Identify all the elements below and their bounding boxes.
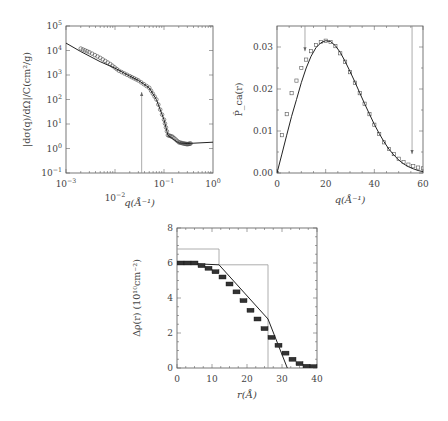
chart-contrast-profile: 01020304002468r(Å)Δρ(r) (10¹⁰cm⁻²) (112, 212, 336, 421)
series-line (177, 263, 287, 368)
axis-ticks (66, 26, 213, 173)
plot-area (66, 43, 213, 146)
x-tick-label: 20 (320, 179, 332, 189)
y-tick-label: 104 (47, 44, 62, 56)
series-line (66, 43, 213, 143)
series-markers (177, 261, 317, 369)
x-tick-label: 10−2 (105, 191, 126, 203)
series-line (277, 41, 423, 173)
plot-area (275, 39, 424, 175)
x-tick-label: 40 (369, 179, 381, 189)
y-tick-label: 102 (47, 93, 62, 105)
y-tick-label: 103 (47, 68, 62, 80)
x-tick-label: 10−3 (56, 177, 77, 189)
y-tick-label: 100 (47, 142, 62, 154)
x-tick-label: 0 (274, 179, 280, 189)
y-tick-label: 6 (167, 258, 173, 268)
plot-frame (277, 26, 423, 173)
arrowhead-icon (140, 92, 143, 96)
x-tick-label: 10−1 (154, 177, 175, 189)
x-axis-label: q(Å⁻¹) (335, 194, 366, 205)
x-tick-label: 30 (276, 374, 288, 384)
y-tick-label: 0.03 (253, 42, 273, 52)
plot-area (177, 249, 317, 369)
y-tick-label: 0 (167, 363, 173, 373)
x-tick-label: 10 (206, 374, 218, 384)
arrowhead-icon (303, 47, 306, 51)
arrowhead-icon (410, 150, 413, 154)
series-markers (79, 47, 193, 146)
plot-frame (66, 26, 213, 173)
series-line (177, 249, 268, 368)
y-axis-label: |dσ(q)/dΩ|/C(cm²/g) (21, 52, 33, 147)
y-tick-label: 4 (167, 293, 173, 303)
x-axis-label: r(Å) (237, 389, 257, 400)
chart-scattering-intensity: 10−310−210−110010−1100101102103104105q(Å… (0, 0, 224, 215)
x-tick-label: 20 (241, 374, 253, 384)
chart-distance-distribution: 02040600.000.010.020.03q(Å⁻¹)P̂_ca(r) (224, 0, 448, 215)
y-tick-label: 10−1 (41, 166, 62, 178)
series-markers (275, 39, 424, 175)
y-tick-label: 2 (167, 328, 173, 338)
axis-ticks (277, 26, 423, 173)
y-tick-label: 8 (167, 223, 173, 233)
y-axis-label: Δρ(r) (10¹⁰cm⁻²) (131, 259, 142, 337)
y-tick-label: 0.00 (253, 168, 273, 178)
y-tick-label: 0.02 (253, 84, 273, 94)
panel-distance-distribution: 02040600.000.010.020.03q(Å⁻¹)P̂_ca(r) (224, 0, 448, 215)
x-tick-label: 0 (174, 374, 180, 384)
x-tick-label: 100 (205, 177, 220, 189)
y-tick-label: 0.01 (253, 126, 273, 136)
panel-scattering-intensity: 10−310−210−110010−1100101102103104105q(Å… (0, 0, 224, 215)
x-tick-label: 60 (417, 179, 429, 189)
x-tick-label: 40 (311, 374, 323, 384)
panel-contrast-profile: 01020304002468r(Å)Δρ(r) (10¹⁰cm⁻²) (112, 212, 336, 421)
x-axis-label: q(Å⁻¹) (124, 197, 155, 208)
y-tick-label: 105 (47, 19, 62, 31)
y-axis-label: P̂_ca(r) (233, 82, 245, 116)
y-tick-label: 101 (47, 117, 62, 129)
